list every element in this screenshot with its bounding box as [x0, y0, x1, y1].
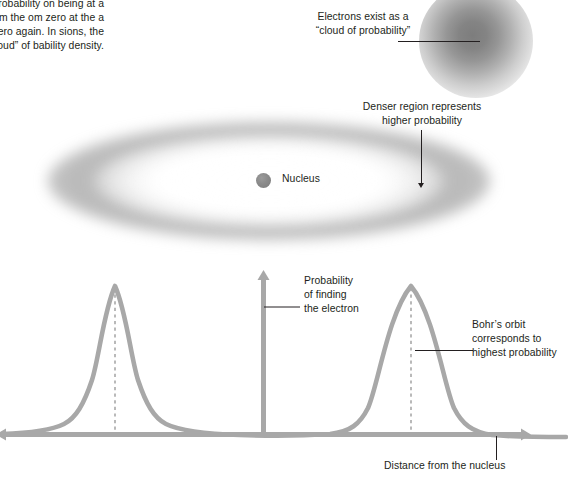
caption-paragraph: gen atom as a e probability on being at … [0, 0, 104, 53]
probability-axis-label: Probability of finding the electron [304, 274, 359, 316]
electron-cloud-leader-line [398, 41, 480, 42]
denser-region-arrow-icon [418, 183, 424, 188]
electron-cloud-label: Electrons exist as a “cloud of probabili… [302, 10, 424, 38]
bohr-orbit-leader-line [415, 350, 473, 351]
nucleus-sphere [256, 173, 271, 188]
nucleus-label: Nucleus [282, 172, 320, 186]
x-axis-left-arrow-icon [0, 429, 6, 441]
denser-region-label: Denser region represents higher probabil… [352, 100, 492, 128]
distance-label-leader-line [496, 436, 497, 460]
bohr-orbit-label: Bohr’s orbit corresponds to highest prob… [472, 318, 557, 360]
probability-density-curve [2, 286, 566, 437]
denser-region-leader-line [421, 130, 422, 186]
y-axis-up-arrow-icon [258, 270, 270, 280]
distance-axis-label: Distance from the nucleus [384, 459, 505, 473]
electron-cloud-sphere [419, 0, 533, 98]
